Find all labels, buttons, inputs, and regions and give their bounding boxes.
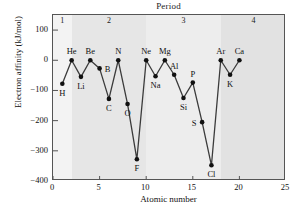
data-point-O (125, 102, 130, 107)
element-label-S: S (192, 118, 197, 128)
element-label-N: N (115, 46, 121, 56)
y-tick-label: 0 (44, 54, 48, 64)
data-point-C (107, 97, 112, 102)
x-tick-label: 15 (188, 182, 197, 192)
data-point-markers (60, 58, 242, 168)
element-label-K: K (227, 79, 233, 89)
element-label-B: B (105, 64, 111, 74)
electron-affinity-line (62, 60, 239, 165)
x-tick-label: 25 (281, 182, 290, 192)
period-axis-title: Period (52, 1, 285, 11)
data-point-N (116, 58, 121, 63)
y-tick-label: −400 (30, 175, 48, 185)
y-tick-label: −300 (30, 145, 48, 155)
data-point-He (69, 58, 74, 63)
element-label-Na: Na (151, 80, 161, 90)
x-tick-label: 10 (141, 182, 150, 192)
x-axis-title: Atomic number (52, 194, 285, 204)
x-tick-label: 0 (50, 182, 54, 192)
period-band-label: 2 (107, 16, 111, 25)
element-label-Be: Be (86, 46, 95, 56)
data-point-Li (79, 75, 84, 80)
element-label-Si: Si (180, 102, 187, 112)
x-tick-label: 20 (234, 182, 243, 192)
data-point-F (135, 157, 140, 162)
plot-frame: 1234 HHeLiBeBCNOFNeNaMgAlSiPSClArKCa (52, 14, 285, 180)
element-label-Li: Li (77, 81, 85, 91)
data-point-H (60, 82, 65, 87)
data-point-K (228, 72, 233, 77)
element-label-Ar: Ar (216, 46, 225, 56)
data-point-Na (153, 74, 158, 79)
y-tick-label: −100 (30, 84, 48, 94)
chart-page: Period 1234 HHeLiBeBCNOFNeNaMgAlSiPSClAr… (0, 0, 297, 211)
data-point-Al (172, 72, 177, 77)
element-label-F: F (135, 163, 140, 173)
x-tick-marks (53, 176, 285, 180)
y-tick-label: −200 (30, 115, 48, 125)
data-point-Si (181, 96, 186, 101)
data-point-Be (88, 58, 93, 63)
element-label-He: He (67, 46, 77, 56)
element-label-C: C (106, 103, 112, 113)
plot-svg (53, 15, 285, 180)
period-band-label: 1 (60, 16, 64, 25)
data-point-Mg (163, 58, 168, 63)
element-label-Ca: Ca (235, 46, 244, 56)
period-band-label: 4 (251, 16, 255, 25)
y-tick-label: 100 (35, 24, 48, 34)
element-label-Al: Al (170, 61, 179, 71)
period-band-label: 3 (181, 16, 185, 25)
element-label-H: H (59, 88, 65, 98)
data-point-Ca (237, 58, 242, 63)
element-label-P: P (190, 69, 195, 79)
element-label-Mg: Mg (159, 46, 171, 56)
element-label-Ne: Ne (141, 46, 151, 56)
data-point-B (97, 66, 102, 71)
data-point-Ne (144, 58, 149, 63)
data-point-S (200, 120, 205, 125)
element-label-O: O (124, 108, 130, 118)
data-point-Cl (209, 163, 214, 168)
element-label-Cl: Cl (207, 169, 215, 179)
data-point-P (191, 80, 196, 85)
y-tick-marks (53, 30, 58, 180)
x-tick-label: 5 (96, 182, 100, 192)
y-axis-title: Electron affinity (kJ/mol) (13, 0, 23, 138)
data-point-Ar (218, 58, 223, 63)
